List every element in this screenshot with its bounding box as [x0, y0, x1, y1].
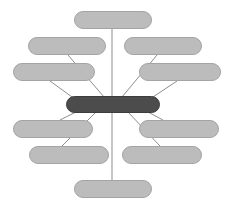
branch-top[interactable] — [74, 11, 152, 29]
mind-map-diagram — [0, 0, 226, 207]
branch-right-3[interactable] — [139, 120, 219, 138]
branch-left-2[interactable] — [13, 63, 95, 81]
branch-left-1[interactable] — [28, 37, 106, 55]
branch-bottom[interactable] — [74, 180, 152, 198]
branch-left-3[interactable] — [13, 120, 93, 138]
branch-right-2[interactable] — [139, 63, 221, 81]
branch-left-4[interactable] — [29, 146, 109, 164]
branch-right-1[interactable] — [124, 37, 202, 55]
connector-left-3 — [60, 112, 76, 120]
connector-right-3 — [148, 112, 163, 120]
connector-right-2 — [153, 81, 177, 97]
connector-left-2 — [50, 81, 72, 97]
branch-right-4[interactable] — [122, 146, 202, 164]
center-node[interactable] — [66, 96, 160, 113]
